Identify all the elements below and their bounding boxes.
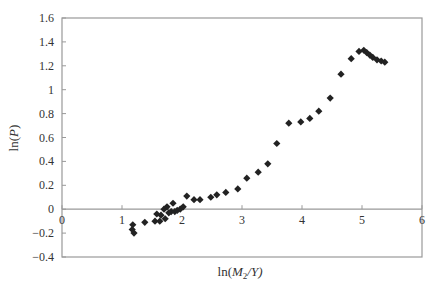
- data-point-diamond: [273, 140, 280, 147]
- y-tick-label: 1: [48, 83, 54, 97]
- data-points: [129, 47, 389, 237]
- y-tick-label: −0.2: [32, 226, 54, 240]
- x-tick-label: 3: [239, 213, 245, 227]
- data-point-diamond: [348, 55, 355, 62]
- y-tick-label: 0.8: [39, 107, 54, 121]
- data-point-diamond: [337, 71, 344, 78]
- y-axis-title: ln(P): [6, 125, 21, 152]
- data-point-diamond: [285, 120, 292, 127]
- x-tick-label: 1: [119, 213, 125, 227]
- data-point-diamond: [183, 192, 190, 199]
- data-point-diamond: [169, 200, 176, 207]
- data-point-diamond: [207, 194, 214, 201]
- y-tick-label: −0.4: [32, 250, 54, 264]
- data-point-diamond: [264, 160, 271, 167]
- data-point-diamond: [297, 118, 304, 125]
- x-axis-title: ln(M2/Y): [218, 264, 263, 281]
- x-tick-label: 6: [419, 213, 425, 227]
- data-point-diamond: [213, 191, 220, 198]
- y-tick-label: 1.2: [39, 59, 54, 73]
- x-tick-label: 5: [359, 213, 365, 227]
- x-axis-ticks: 0123456: [59, 205, 425, 227]
- x-tick-label: 4: [299, 213, 305, 227]
- y-tick-label: 1.6: [39, 11, 54, 25]
- y-tick-label: 0.4: [39, 154, 54, 168]
- y-tick-label: 0: [48, 202, 54, 216]
- y-tick-label: 0.6: [39, 131, 54, 145]
- y-tick-label: 1.4: [39, 35, 54, 49]
- data-point-diamond: [196, 196, 203, 203]
- scatter-chart: 1.61.41.210.80.60.40.20−0.2−0.4 0123456 …: [0, 0, 433, 289]
- data-point-diamond: [327, 94, 334, 101]
- data-point-diamond: [141, 219, 148, 226]
- x-tick-label: 0: [59, 213, 65, 227]
- data-point-diamond: [255, 169, 262, 176]
- x-tick-label: 2: [179, 213, 185, 227]
- data-point-diamond: [315, 108, 322, 115]
- data-point-diamond: [222, 189, 229, 196]
- y-tick-label: 0.2: [39, 178, 54, 192]
- data-point-diamond: [243, 175, 250, 182]
- data-point-diamond: [234, 185, 241, 192]
- data-point-diamond: [306, 115, 313, 122]
